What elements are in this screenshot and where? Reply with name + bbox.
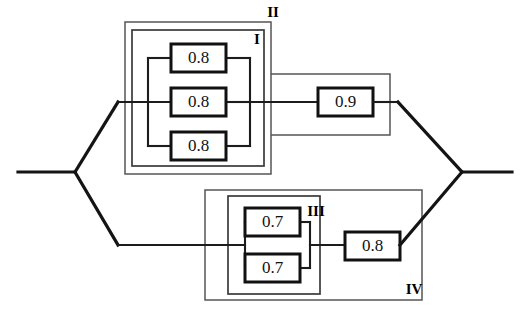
group-label-IV: IV [406, 281, 423, 297]
block-0.7-bottom: 0.7 [245, 254, 300, 282]
block-label: 0.9 [335, 92, 356, 111]
reliability-block-diagram: 0.8 0.8 0.8 0.9 0.7 [0, 0, 529, 322]
block-label: 0.8 [362, 236, 383, 255]
group-label-II: II [267, 4, 279, 20]
split-to-upper-branch [75, 102, 118, 172]
block-label: 0.8 [188, 136, 209, 155]
block-label: 0.8 [188, 92, 209, 111]
group-label-I: I [254, 31, 260, 47]
block-label: 0.7 [262, 212, 284, 231]
diagram-canvas: 0.8 0.8 0.8 0.9 0.7 [0, 0, 529, 322]
lower-branch-to-merge [400, 172, 462, 245]
block-0.9: 0.9 [318, 88, 373, 116]
block-label: 0.8 [188, 48, 209, 67]
upper-branch-to-merge [398, 102, 462, 172]
block-label: 0.7 [262, 258, 284, 277]
group-label-III: III [307, 203, 325, 219]
split-to-lower-branch [75, 172, 118, 245]
block-0.7-top: 0.7 [245, 208, 300, 236]
block-0.8-middle: 0.8 [171, 88, 226, 116]
block-0.8-top: 0.8 [171, 44, 226, 72]
block-0.8-lower-series: 0.8 [345, 232, 400, 260]
block-0.8-bottom: 0.8 [171, 132, 226, 160]
